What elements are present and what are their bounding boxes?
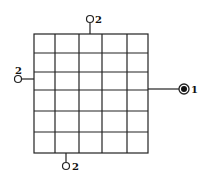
grid-diagram: 2 2 2 1 [0, 0, 208, 183]
open-circle-icon [15, 76, 22, 83]
terminal-bottom: 2 [63, 153, 80, 172]
open-circle-icon [87, 16, 94, 23]
open-circle-icon [63, 163, 70, 170]
terminal-top: 2 [87, 14, 103, 34]
terminal-bottom-label: 2 [72, 161, 79, 172]
terminal-left-label: 2 [15, 65, 22, 76]
grid-border [34, 34, 148, 153]
grid [34, 34, 148, 153]
terminal-left: 2 [15, 65, 35, 83]
terminal-right: 1 [148, 84, 198, 95]
terminal-right-label: 1 [191, 84, 198, 95]
filled-dot-icon [181, 86, 187, 92]
terminal-top-label: 2 [95, 14, 102, 25]
